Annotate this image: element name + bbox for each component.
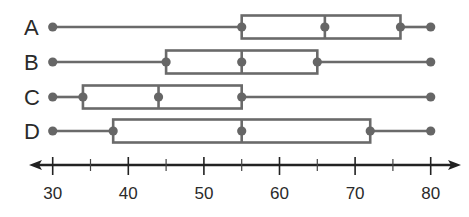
q1-point — [162, 57, 171, 66]
tick-label: 40 — [119, 184, 138, 203]
box-row-a: A — [24, 15, 435, 40]
tick-label: 80 — [421, 184, 440, 203]
box-plot-chart: ABCD 304050607080 — [0, 0, 469, 217]
max-point — [426, 92, 435, 101]
row-label: A — [24, 15, 39, 40]
box-row-b: B — [24, 50, 435, 75]
q3-point — [396, 22, 405, 31]
min-point — [48, 92, 57, 101]
row-label: B — [24, 50, 39, 75]
q3-point — [237, 92, 246, 101]
row-label: C — [24, 85, 40, 110]
box-row-d: D — [24, 119, 435, 144]
tick-label: 30 — [43, 184, 62, 203]
box-row-c: C — [24, 85, 435, 110]
min-point — [48, 126, 57, 135]
min-point — [48, 57, 57, 66]
number-line-axis: 304050607080 — [29, 157, 461, 203]
max-point — [426, 22, 435, 31]
max-point — [426, 126, 435, 135]
max-point — [426, 57, 435, 66]
q1-point — [78, 92, 87, 101]
tick-label: 60 — [270, 184, 289, 203]
q1-point — [109, 126, 118, 135]
tick-label: 50 — [194, 184, 213, 203]
row-label: D — [24, 119, 40, 144]
median-point — [154, 92, 163, 101]
q3-point — [366, 126, 375, 135]
min-point — [48, 22, 57, 31]
box-plot-rows: ABCD — [24, 15, 435, 144]
tick-label: 70 — [346, 184, 365, 203]
median-point — [320, 22, 329, 31]
median-point — [237, 126, 246, 135]
q3-point — [313, 57, 322, 66]
q1-point — [237, 22, 246, 31]
median-point — [237, 57, 246, 66]
